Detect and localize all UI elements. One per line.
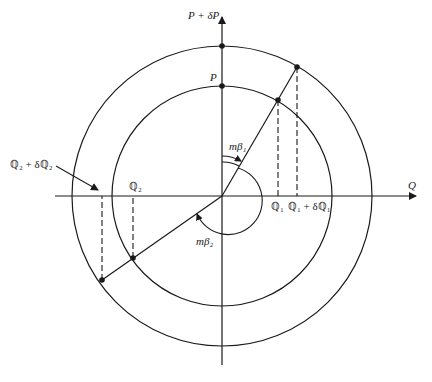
- beta2-angle-arc: [197, 168, 262, 235]
- q2-plus-pointer-arrow: [56, 166, 98, 190]
- m-beta1-label: mβ₁: [229, 140, 246, 152]
- q1-label: ℚ₁: [271, 200, 284, 212]
- q2-plus-label: ℚ₂ + δℚ₂: [10, 158, 53, 170]
- phasor-diagram: P + δP Q P ℚ₁ ℚ₁ + δℚ₁ ℚ₂ ℚ₂ + δℚ₂ mβ₁ m…: [0, 0, 432, 382]
- point-outer-beta2: [99, 277, 105, 283]
- point-inner-beta1: [275, 97, 281, 103]
- vertical-axis-label: P + δP: [187, 9, 220, 21]
- horizontal-axis-label: Q: [408, 179, 416, 191]
- p-label: P: [209, 71, 217, 83]
- q2-label: ℚ₂: [129, 180, 142, 192]
- beta1-angle-arc: [222, 156, 241, 161]
- point-p: [219, 83, 225, 89]
- point-p-plus: [219, 43, 225, 49]
- point-inner-beta2: [130, 255, 136, 261]
- point-outer-beta1: [294, 64, 300, 70]
- m-beta2-label: mβ₂: [196, 235, 213, 247]
- q1-plus-label: ℚ₁ + δℚ₁: [288, 200, 331, 212]
- beta1-inner-arc: [222, 162, 239, 166]
